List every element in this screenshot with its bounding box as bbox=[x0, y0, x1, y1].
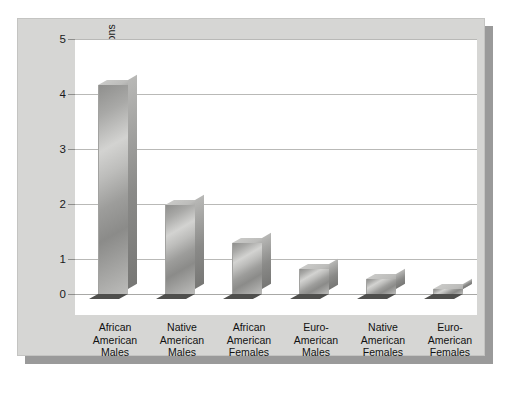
y-tick-label-4: 4 bbox=[20, 88, 66, 100]
bar-front-face bbox=[165, 205, 195, 294]
bar-side-face bbox=[262, 233, 271, 289]
x-label-line: American bbox=[216, 334, 282, 347]
bar-side-face bbox=[329, 258, 338, 289]
bar-side-face bbox=[396, 269, 405, 289]
chart-figure: Number of Homicides Per 100 Persons 5 4 … bbox=[0, 0, 518, 393]
bar-body bbox=[232, 243, 262, 294]
y-tick-label-5: 5 bbox=[20, 33, 66, 45]
x-label-line: Females bbox=[350, 346, 416, 359]
y-tick-label-2: 2 bbox=[20, 198, 66, 210]
bar-side-face bbox=[195, 195, 204, 289]
x-label-line: American bbox=[417, 334, 483, 347]
x-label-african-american-males: African American Males bbox=[82, 321, 148, 359]
x-label-line: Males bbox=[149, 346, 215, 359]
x-label-line: American bbox=[149, 334, 215, 347]
y-tick-mark-4 bbox=[68, 94, 75, 95]
bar-native-american-females bbox=[366, 279, 396, 294]
bar-euro-american-females bbox=[433, 289, 463, 294]
bar-front-face bbox=[366, 279, 396, 294]
x-label-euro-american-males: Euro- American Males bbox=[283, 321, 349, 359]
bar-front-face bbox=[299, 269, 329, 295]
bar-body bbox=[165, 205, 195, 294]
y-tick-label-0: 0 bbox=[20, 288, 66, 300]
x-label-line: American bbox=[350, 334, 416, 347]
x-label-line: Native bbox=[350, 321, 416, 334]
x-label-line: African bbox=[82, 321, 148, 334]
x-label-line: Females bbox=[216, 346, 282, 359]
bar-base-face bbox=[290, 294, 329, 299]
x-label-native-american-males: Native American Males bbox=[149, 321, 215, 359]
x-label-line: American bbox=[283, 334, 349, 347]
bar-native-american-males bbox=[165, 205, 195, 294]
bar-african-american-males bbox=[98, 85, 128, 294]
gridline-5 bbox=[75, 39, 477, 40]
bar-side-face bbox=[128, 75, 137, 289]
plot-area bbox=[75, 39, 477, 315]
bar-base-face bbox=[89, 294, 128, 299]
bar-front-face bbox=[98, 85, 128, 294]
x-label-line: Females bbox=[417, 346, 483, 359]
x-label-line: Euro- bbox=[283, 321, 349, 334]
bar-front-face bbox=[232, 243, 262, 294]
x-label-line: Males bbox=[283, 346, 349, 359]
y-tick-mark-2 bbox=[68, 204, 75, 205]
x-label-line: American bbox=[82, 334, 148, 347]
chart-panel: Number of Homicides Per 100 Persons 5 4 … bbox=[17, 18, 485, 356]
y-tick-label-3: 3 bbox=[20, 143, 66, 155]
bar-euro-american-males bbox=[299, 269, 329, 295]
bar-base-face bbox=[156, 294, 195, 299]
bar-body bbox=[98, 85, 128, 294]
gridline-0 bbox=[75, 294, 477, 295]
x-label-line: Males bbox=[82, 346, 148, 359]
bar-body bbox=[366, 279, 396, 294]
x-label-line: Native bbox=[149, 321, 215, 334]
x-label-euro-american-females: Euro- American Females bbox=[417, 321, 483, 359]
bar-african-american-females bbox=[232, 243, 262, 294]
bar-base-face bbox=[223, 294, 262, 299]
bar-body bbox=[433, 289, 463, 294]
bar-base-face bbox=[424, 294, 463, 299]
y-tick-mark-0 bbox=[68, 294, 75, 295]
bar-base-face bbox=[357, 294, 396, 299]
y-tick-mark-1 bbox=[68, 259, 75, 260]
x-label-african-american-females: African American Females bbox=[216, 321, 282, 359]
bar-body bbox=[299, 269, 329, 295]
bar-side-face bbox=[463, 279, 472, 289]
x-label-line: African bbox=[216, 321, 282, 334]
x-label-native-american-females: Native American Females bbox=[350, 321, 416, 359]
x-label-line: Euro- bbox=[417, 321, 483, 334]
y-tick-mark-3 bbox=[68, 149, 75, 150]
y-tick-mark-5 bbox=[68, 39, 75, 40]
y-tick-label-1: 1 bbox=[20, 253, 66, 265]
